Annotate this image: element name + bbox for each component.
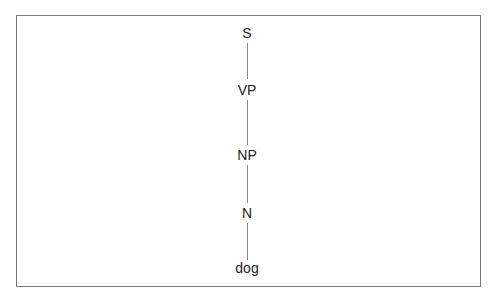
tree-node-np: NP [237, 147, 256, 163]
tree-node-s: S [242, 25, 251, 41]
tree-node-vp: VP [238, 82, 257, 98]
tree-node-n: N [242, 205, 252, 221]
tree-edge-np-n [247, 165, 248, 203]
tree-edge-s-vp [247, 43, 248, 79]
tree-node-dog: dog [235, 260, 258, 276]
tree-edge-vp-np [247, 100, 248, 145]
tree-edge-n-dog [247, 223, 248, 260]
